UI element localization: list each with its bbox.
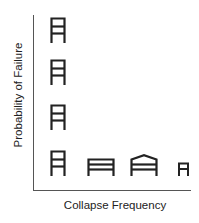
y-axis-label: Probability of Failure xyxy=(12,43,24,148)
wide-low-frame-icon xyxy=(87,158,115,176)
tall-frame-icon xyxy=(50,104,66,130)
x-axis-label: Collapse Frequency xyxy=(64,199,166,211)
y-axis xyxy=(33,15,34,191)
tall-frame-icon xyxy=(50,17,66,43)
tall-frame-icon xyxy=(50,150,66,176)
small-frame-icon xyxy=(178,162,189,176)
gabled-frame-icon xyxy=(130,154,158,176)
x-axis xyxy=(33,190,191,191)
tall-frame-icon xyxy=(50,59,66,85)
